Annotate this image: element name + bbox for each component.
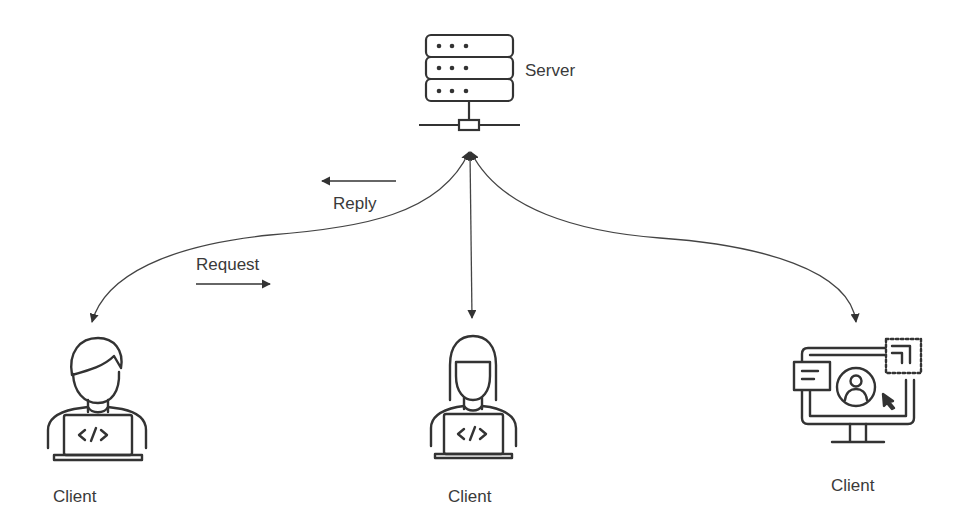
edge-server-client2 [470, 152, 472, 318]
client-2-label: Client [448, 487, 491, 507]
client-server-diagram [0, 0, 961, 524]
client-1-label: Client [53, 487, 96, 507]
edge-server-client1 [92, 152, 469, 322]
developer-male-laptop-icon [48, 338, 146, 460]
reply-label: Reply [333, 194, 376, 214]
edge-server-client3 [471, 152, 856, 322]
server-rack-icon [419, 35, 520, 130]
monitor-user-interface-icon [794, 339, 921, 442]
request-label: Request [196, 255, 259, 275]
connection-lines [92, 152, 856, 322]
developer-female-laptop-icon [431, 336, 516, 458]
client-3-label: Client [831, 476, 874, 496]
server-label: Server [525, 61, 575, 81]
